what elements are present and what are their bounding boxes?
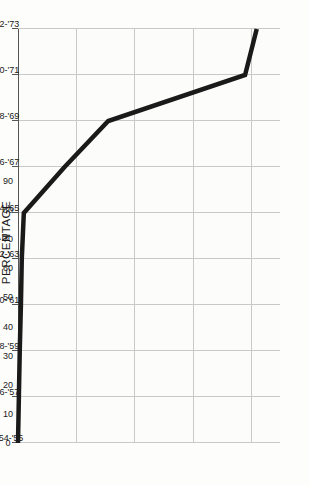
value-axis-tick-label: 60 [3,263,13,273]
category-axis-tick-label: '60-'61 [0,295,19,305]
category-axis-tick-label: '68-'69 [0,111,19,121]
category-axis-tick-label: '72-'73 [0,19,19,29]
category-axis-tick-label: '58-'59 [0,341,19,351]
chart-figure: PERCENTAGE SCHOOL YEAR 01020304050607080… [0,0,309,485]
value-axis-tick-label: 40 [3,322,13,332]
category-axis-tick-label: '56-'57 [0,387,19,397]
value-axis-tick-label: 30 [3,351,13,361]
plot-area [18,29,280,443]
data-series-line [18,29,280,443]
category-axis-tick-label: '62-'63 [0,249,19,259]
chart-rotated-canvas: PERCENTAGE SCHOOL YEAR 01020304050607080… [0,0,309,485]
value-axis-tick-label: 70 [3,234,13,244]
category-axis-tick-label: 1954-'55 [0,433,23,443]
category-axis-tick-label: '70-'71 [0,65,19,75]
series-polyline [18,29,257,443]
category-axis-tick-label: '66-'67 [0,157,19,167]
value-axis-tick-label: 10 [3,409,13,419]
value-axis-tick-label: 90 [3,176,13,186]
category-axis-tick-label: '64-'65 [0,203,19,213]
